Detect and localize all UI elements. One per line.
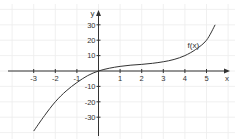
y-tick-label: 10 (87, 51, 95, 60)
y-axis-label: y (91, 9, 95, 18)
y-tick-label: 20 (87, 36, 95, 45)
y-tick-label: -10 (85, 82, 96, 91)
y-tick-label: 30 (87, 21, 95, 30)
x-axis-arrow-icon (224, 69, 230, 74)
x-tick-label: 4 (183, 74, 187, 83)
y-tick-label: -20 (85, 98, 96, 107)
x-axis-label: x (225, 74, 229, 83)
x-tick-label: -1 (74, 74, 81, 83)
plot-canvas: -3-2-112345302010-10-20-30 f(x) x y (0, 0, 235, 139)
function-plot: -3-2-112345302010-10-20-30 f(x) x y (0, 0, 235, 139)
curve-label: f(x) (188, 41, 200, 50)
x-tick-label: 5 (204, 74, 208, 83)
x-tick-label: -2 (52, 74, 59, 83)
y-axis-arrow-icon (96, 10, 101, 16)
x-tick-label: 3 (161, 74, 165, 83)
x-tick-label: -3 (30, 74, 37, 83)
x-tick-label: 1 (118, 74, 122, 83)
x-tick-label: 2 (140, 74, 144, 83)
y-tick-label: -30 (85, 113, 96, 122)
